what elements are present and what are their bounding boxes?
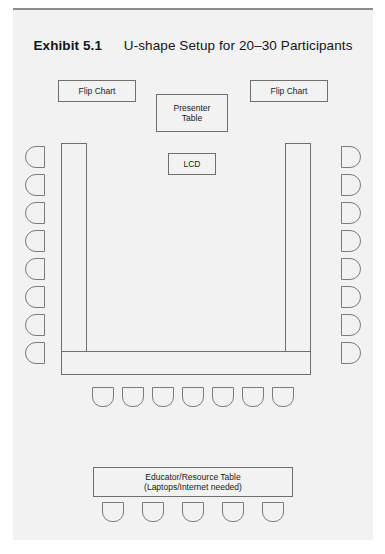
- chair-right-6: [341, 286, 361, 308]
- chair-right-8: [341, 342, 361, 364]
- chair-left-3: [25, 202, 45, 224]
- chair-educator-4: [222, 502, 244, 522]
- u-table-base: [61, 351, 311, 375]
- flip-chart-left-label: Flip Chart: [79, 86, 116, 96]
- exhibit-label: Exhibit 5.1: [33, 38, 102, 53]
- educator-table-label-line2: (Laptops/Internet needed): [144, 482, 242, 492]
- exhibit-page: Exhibit 5.1 U-shape Setup for 20–30 Part…: [0, 0, 385, 554]
- educator-resource-table: Educator/Resource Table (Laptops/Interne…: [93, 467, 293, 497]
- chair-left-4: [25, 230, 45, 252]
- chair-left-8: [25, 342, 45, 364]
- exhibit-panel: Exhibit 5.1 U-shape Setup for 20–30 Part…: [13, 10, 373, 540]
- educator-table-label-line1: Educator/Resource Table: [145, 472, 240, 482]
- chair-educator-5: [262, 502, 284, 522]
- chair-right-5: [341, 258, 361, 280]
- lcd-label: LCD: [183, 159, 200, 169]
- chair-bottom-6: [242, 387, 264, 407]
- u-table-right-arm: [285, 143, 311, 375]
- chair-left-5: [25, 258, 45, 280]
- chair-right-2: [341, 174, 361, 196]
- lcd-projector: LCD: [168, 153, 216, 175]
- chair-educator-2: [142, 502, 164, 522]
- chair-right-3: [341, 202, 361, 224]
- chair-left-1: [25, 146, 45, 168]
- page-title: Exhibit 5.1 U-shape Setup for 20–30 Part…: [13, 38, 373, 53]
- flip-chart-right: Flip Chart: [250, 80, 328, 102]
- presenter-table-label-line1: Presenter: [174, 103, 211, 113]
- chair-educator-3: [182, 502, 204, 522]
- chair-left-6: [25, 286, 45, 308]
- chair-bottom-7: [272, 387, 294, 407]
- chair-educator-1: [102, 502, 124, 522]
- chair-left-7: [25, 314, 45, 336]
- chair-bottom-1: [92, 387, 114, 407]
- presenter-table-label-line2: Table: [182, 113, 202, 123]
- flip-chart-right-label: Flip Chart: [271, 86, 308, 96]
- exhibit-title-text: U-shape Setup for 20–30 Participants: [124, 38, 353, 53]
- presenter-table: Presenter Table: [156, 94, 228, 132]
- chair-right-7: [341, 314, 361, 336]
- chair-bottom-4: [182, 387, 204, 407]
- chair-left-2: [25, 174, 45, 196]
- chair-right-1: [341, 146, 361, 168]
- chair-bottom-2: [122, 387, 144, 407]
- chair-right-4: [341, 230, 361, 252]
- u-table-left-arm: [61, 143, 87, 375]
- chair-bottom-5: [212, 387, 234, 407]
- chair-bottom-3: [152, 387, 174, 407]
- flip-chart-left: Flip Chart: [58, 80, 136, 102]
